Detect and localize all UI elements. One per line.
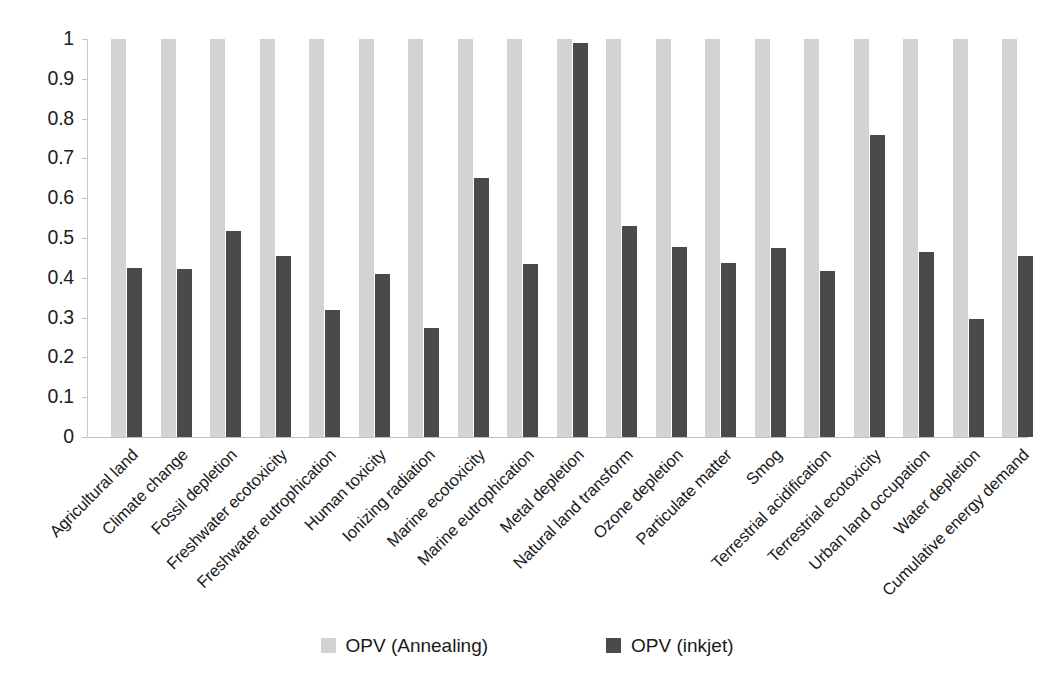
bar-opv-annealing — [903, 39, 918, 437]
bar-opv-inkjet — [523, 264, 538, 437]
bar-opv-annealing — [606, 39, 621, 437]
bar-group — [705, 39, 737, 437]
bar-group — [359, 39, 391, 437]
bar-opv-inkjet — [969, 319, 984, 437]
bar-opv-inkjet — [771, 248, 786, 437]
legend-label: OPV (Annealing) — [346, 636, 489, 655]
bar-opv-annealing — [161, 39, 176, 437]
bar-opv-annealing — [210, 39, 225, 437]
bar-opv-annealing — [260, 39, 275, 437]
y-axis: 00.10.20.30.40.50.60.70.80.91 — [0, 0, 88, 480]
bar-group — [854, 39, 886, 437]
y-axis-tick-label: 0.6 — [14, 188, 74, 208]
x-axis-labels: Agricultural landClimate changeFossil de… — [88, 437, 1028, 627]
legend-item: OPV (Annealing) — [321, 636, 489, 655]
y-axis-tick-label: 0.7 — [14, 149, 74, 169]
bar-opv-inkjet — [870, 135, 885, 437]
bar-group — [804, 39, 836, 437]
bar-opv-inkjet — [919, 252, 934, 437]
bar-opv-inkjet — [226, 231, 241, 437]
bar-opv-annealing — [309, 39, 324, 437]
bar-opv-inkjet — [721, 263, 736, 437]
bar-opv-annealing — [111, 39, 126, 437]
bar-opv-annealing — [804, 39, 819, 437]
bar-opv-annealing — [1002, 39, 1017, 437]
bar-opv-inkjet — [424, 328, 439, 437]
bar-opv-inkjet — [375, 274, 390, 437]
x-axis-tick-label: Smog — [742, 446, 784, 488]
bar-group — [210, 39, 242, 437]
x-axis-tick-label: Particulate matter — [633, 446, 735, 548]
bar-opv-annealing — [557, 39, 572, 437]
x-axis-tick-label: Ozone depletion — [590, 446, 686, 542]
y-axis-tick-label: 0.8 — [14, 109, 74, 129]
legend-label: OPV (inkjet) — [631, 636, 733, 655]
y-axis-tick-label: 1 — [14, 29, 74, 49]
bar-group — [953, 39, 985, 437]
bar-group — [903, 39, 935, 437]
bar-group — [656, 39, 688, 437]
bar-opv-inkjet — [127, 268, 142, 437]
bar-opv-annealing — [755, 39, 770, 437]
bar-opv-inkjet — [177, 269, 192, 437]
legend-swatch-opv-inkjet — [606, 638, 621, 653]
bar-opv-inkjet — [325, 310, 340, 437]
bar-opv-inkjet — [573, 43, 588, 437]
bar-group — [309, 39, 341, 437]
bar-opv-annealing — [854, 39, 869, 437]
bar-group — [161, 39, 193, 437]
bar-opv-annealing — [953, 39, 968, 437]
bar-group — [507, 39, 539, 437]
bar-group — [260, 39, 292, 437]
y-axis-tick-label: 0.2 — [14, 348, 74, 368]
y-axis-tick-label: 0.9 — [14, 69, 74, 89]
bar-opv-annealing — [359, 39, 374, 437]
bar-opv-annealing — [408, 39, 423, 437]
bar-group — [755, 39, 787, 437]
y-axis-tick-label: 0.3 — [14, 308, 74, 328]
y-axis-tick-label: 0.5 — [14, 228, 74, 248]
bar-group — [458, 39, 490, 437]
bar-group — [606, 39, 638, 437]
bar-opv-inkjet — [1018, 256, 1033, 437]
legend-item: OPV (inkjet) — [606, 636, 733, 655]
y-axis-tick-label: 0.4 — [14, 268, 74, 288]
bar-chart: 00.10.20.30.40.50.60.70.80.91 Agricultur… — [0, 0, 1054, 694]
bar-group — [111, 39, 143, 437]
bar-opv-annealing — [705, 39, 720, 437]
bar-opv-annealing — [458, 39, 473, 437]
bar-group — [557, 39, 589, 437]
bar-group — [408, 39, 440, 437]
chart-legend: OPV (Annealing)OPV (inkjet) — [0, 636, 1054, 655]
bar-opv-inkjet — [672, 247, 687, 437]
bar-opv-annealing — [656, 39, 671, 437]
bar-opv-inkjet — [276, 256, 291, 437]
bar-opv-annealing — [507, 39, 522, 437]
y-axis-tick-label: 0 — [14, 427, 74, 447]
bar-opv-inkjet — [474, 178, 489, 437]
bar-opv-inkjet — [622, 226, 637, 437]
legend-swatch-opv-annealing — [321, 638, 336, 653]
plot-area — [88, 39, 1028, 437]
bar-group — [1002, 39, 1034, 437]
y-axis-tick-label: 0.1 — [14, 387, 74, 407]
bar-opv-inkjet — [820, 271, 835, 437]
